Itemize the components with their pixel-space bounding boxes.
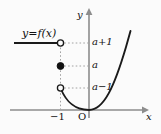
value-label-a-plus-1: a+1 — [92, 37, 113, 47]
open-point-bottom-marker — [57, 85, 63, 91]
dotted-guides-group — [61, 43, 90, 110]
origin-label: O — [78, 112, 86, 122]
point-markers-group — [57, 40, 64, 91]
x-axis-label: x — [146, 112, 152, 122]
value-label-a-minus-1: a−1 — [92, 82, 113, 92]
graph-figure: y=f(x) y x a+1 a a−1 −1 O — [0, 0, 161, 134]
open-point-top-marker — [57, 40, 63, 46]
value-label-a: a — [92, 60, 98, 70]
y-axis-label: y — [77, 10, 83, 20]
filled-point-mid-marker — [57, 63, 64, 70]
function-label: y=f(x) — [22, 28, 56, 39]
y-axis-arrow-icon — [86, 8, 93, 15]
axes-group — [10, 8, 149, 118]
x-tick-label-minus-one: −1 — [50, 112, 65, 122]
